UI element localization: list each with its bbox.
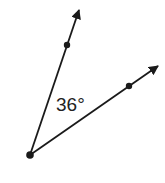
upper-ray-point — [64, 42, 70, 48]
upper-ray — [30, 10, 79, 155]
lower-ray-point — [126, 83, 132, 89]
vertex-point — [26, 151, 34, 159]
angle-diagram — [0, 0, 165, 183]
angle-measure-label: 36° — [56, 95, 85, 114]
lower-ray — [30, 66, 158, 155]
